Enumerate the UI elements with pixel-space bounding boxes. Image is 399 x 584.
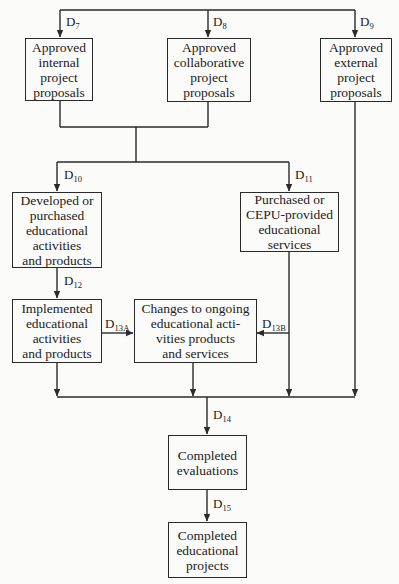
- node-approved-internal-proposals: Approved internal project proposals: [25, 38, 93, 101]
- node-approved-collaborative-proposals: Approved collaborative project proposals: [167, 38, 251, 102]
- node-developed-activities: Developed or purchased educational activ…: [12, 192, 102, 268]
- label-d11: D11: [295, 168, 313, 186]
- node-implemented-activities: Implemented educational activities and p…: [12, 299, 102, 363]
- label-d13a: D13A: [105, 317, 130, 335]
- node-completed-evaluations: Completed evaluations: [168, 435, 247, 490]
- label-d10: D10: [64, 168, 82, 186]
- node-approved-external-proposals: Approved external project proposals: [320, 38, 392, 102]
- label-d9: D9: [360, 15, 374, 33]
- label-d15: D15: [213, 497, 231, 515]
- label-d14: D14: [213, 408, 231, 426]
- label-d8: D8: [213, 15, 227, 33]
- label-d12: D12: [64, 274, 82, 292]
- node-completed-projects: Completed educational projects: [168, 522, 247, 578]
- node-changes-ongoing: Changes to ongoing educational acti- vit…: [134, 299, 257, 363]
- node-purchased-services: Purchased or CEPU-provided educational s…: [240, 192, 339, 252]
- label-d7: D7: [66, 15, 80, 33]
- label-d13b: D13B: [262, 317, 286, 335]
